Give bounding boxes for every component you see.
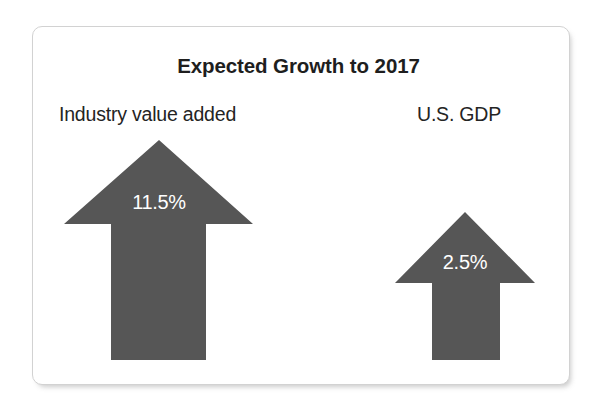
up-arrow-icon-us-gdp [395, 212, 535, 360]
value-label-industry-value-added: 11.5% [79, 191, 239, 214]
figure-root: Expected Growth to 2017 Industry value a… [0, 0, 597, 414]
up-arrow-icon-industry-value-added [64, 140, 253, 360]
value-label-us-gdp: 2.5% [396, 251, 534, 274]
